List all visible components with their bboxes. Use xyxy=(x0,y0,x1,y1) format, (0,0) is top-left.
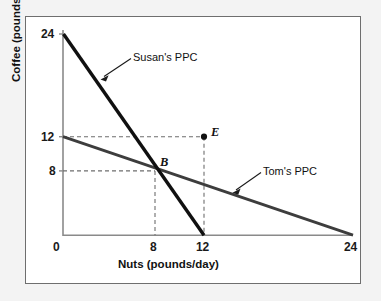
point-e-label: E xyxy=(211,125,219,140)
x-tick-label-12: 12 xyxy=(196,240,209,254)
tom-ppc-annotation-arrow xyxy=(233,173,262,195)
susan-ppc-annotation-arrow xyxy=(101,59,132,82)
y-tick-label-8: 8 xyxy=(49,164,55,178)
susan-ppc-label: Susan's PPC xyxy=(133,51,197,63)
y-tick-label-12: 12 xyxy=(41,130,54,144)
ppc-chart-plot xyxy=(0,0,381,301)
y-tick-label-24: 24 xyxy=(41,27,54,41)
y-axis-title-text: Coffee (pounds/day) xyxy=(10,0,22,82)
figure-root: 24 12 8 0 8 12 24 Coffee (pounds/day) Nu… xyxy=(0,0,381,301)
tom-ppc-label: Tom's PPC xyxy=(263,165,317,177)
point-b-label: B xyxy=(160,155,168,170)
tom-ppc-line xyxy=(63,137,353,236)
point-e-marker xyxy=(201,134,207,140)
x-axis-title: Nuts (pounds/day) xyxy=(118,258,219,270)
x-tick-label-8: 8 xyxy=(150,240,156,254)
x-tick-label-0: 0 xyxy=(53,240,59,254)
x-tick-label-24: 24 xyxy=(344,240,357,254)
susan-ppc-line xyxy=(64,34,205,235)
